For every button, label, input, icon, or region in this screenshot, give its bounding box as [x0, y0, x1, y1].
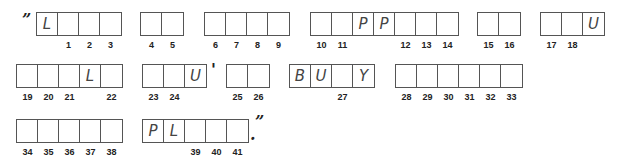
letter-cell[interactable]: U: [185, 65, 206, 87]
letter-cell[interactable]: [459, 65, 480, 87]
letter-cell[interactable]: [332, 13, 353, 35]
word-group: BUY: [289, 64, 375, 88]
letter-cell[interactable]: P: [143, 120, 164, 142]
cell-number: 8: [247, 40, 268, 50]
letter-cell[interactable]: [141, 13, 162, 35]
cell-number: 33: [501, 92, 522, 102]
cell-number: 41: [227, 147, 248, 157]
word-group: L: [16, 64, 123, 88]
letter-cell[interactable]: U: [583, 13, 604, 35]
letter-cell[interactable]: [248, 65, 269, 87]
letter-cell[interactable]: [162, 13, 183, 35]
word-group: [16, 119, 123, 143]
word-group: U: [540, 12, 605, 36]
word-group: [395, 64, 523, 88]
letter-cell[interactable]: [79, 13, 100, 35]
cell-number: 29: [417, 92, 438, 102]
letter-cell[interactable]: [311, 13, 332, 35]
cell-number: 15: [478, 40, 499, 50]
letter-cell[interactable]: [227, 65, 248, 87]
letter-cell[interactable]: [80, 120, 101, 142]
cell-number: 28: [396, 92, 417, 102]
letter-cell[interactable]: [417, 65, 438, 87]
word-group: L: [36, 12, 122, 36]
cell-number: 34: [17, 147, 38, 157]
letter-cell[interactable]: [185, 120, 206, 142]
letter-cell[interactable]: [395, 13, 416, 35]
letter-cell[interactable]: [38, 65, 59, 87]
letter-cell[interactable]: [206, 120, 227, 142]
letter-cell[interactable]: [437, 13, 458, 35]
word-group: [226, 64, 270, 88]
cell-number: 25: [227, 92, 248, 102]
letter-cell[interactable]: [227, 120, 248, 142]
letter-cell[interactable]: [101, 120, 122, 142]
letter-cell[interactable]: [58, 13, 79, 35]
letter-cell[interactable]: [205, 13, 226, 35]
letter-cell[interactable]: [332, 65, 353, 87]
letter-cell[interactable]: [416, 13, 437, 35]
letter-cell[interactable]: P: [374, 13, 395, 35]
cell-number: 17: [541, 40, 562, 50]
cell-number: 18: [562, 40, 583, 50]
cell-number: 37: [80, 147, 101, 157]
letter-cell[interactable]: [501, 65, 522, 87]
cell-number: 32: [480, 92, 501, 102]
letter-cell[interactable]: B: [290, 65, 311, 87]
cell-number: 16: [499, 40, 520, 50]
cell-number: 5: [162, 40, 183, 50]
letter-cell[interactable]: [59, 120, 80, 142]
cell-number: 10: [311, 40, 332, 50]
letter-cell[interactable]: [59, 65, 80, 87]
cell-number: 27: [332, 92, 353, 102]
cell-number: 3: [100, 40, 121, 50]
cell-number: 6: [205, 40, 226, 50]
letter-cell[interactable]: [438, 65, 459, 87]
letter-cell[interactable]: L: [164, 120, 185, 142]
apostrophe: ': [211, 60, 216, 79]
letter-cell[interactable]: [226, 13, 247, 35]
word-group: PP: [310, 12, 459, 36]
letter-cell[interactable]: Y: [353, 65, 374, 87]
letter-cell[interactable]: [38, 120, 59, 142]
cell-number: 24: [164, 92, 185, 102]
letter-cell[interactable]: [164, 65, 185, 87]
cell-number: 38: [101, 147, 122, 157]
letter-cell[interactable]: [268, 13, 289, 35]
letter-cell[interactable]: [480, 65, 501, 87]
word-group: [204, 12, 290, 36]
letter-cell[interactable]: U: [311, 65, 332, 87]
letter-cell[interactable]: [478, 13, 499, 35]
close-quote: ”: [255, 112, 264, 131]
cell-number: 35: [38, 147, 59, 157]
cell-number: 9: [268, 40, 289, 50]
cell-number: 22: [101, 92, 122, 102]
cell-number: 20: [38, 92, 59, 102]
letter-cell[interactable]: [100, 13, 121, 35]
cell-number: 11: [332, 40, 353, 50]
cell-number: 30: [438, 92, 459, 102]
cell-number: 13: [416, 40, 437, 50]
letter-cell[interactable]: [101, 65, 122, 87]
letter-cell[interactable]: [143, 65, 164, 87]
letter-cell[interactable]: [247, 13, 268, 35]
word-group: [477, 12, 521, 36]
letter-cell[interactable]: [17, 65, 38, 87]
cell-number: 1: [58, 40, 79, 50]
letter-cell[interactable]: L: [80, 65, 101, 87]
letter-cell[interactable]: [499, 13, 520, 35]
word-group: PL: [142, 119, 249, 143]
letter-cell[interactable]: [17, 120, 38, 142]
letter-cell[interactable]: [396, 65, 417, 87]
letter-cell[interactable]: [541, 13, 562, 35]
cell-number: 12: [395, 40, 416, 50]
letter-cell[interactable]: P: [353, 13, 374, 35]
cell-number: 21: [59, 92, 80, 102]
cell-number: 26: [248, 92, 269, 102]
cell-number: 14: [437, 40, 458, 50]
letter-cell[interactable]: L: [37, 13, 58, 35]
letter-cell[interactable]: [562, 13, 583, 35]
word-group: [140, 12, 184, 36]
cell-number: 19: [17, 92, 38, 102]
cell-number: 31: [459, 92, 480, 102]
